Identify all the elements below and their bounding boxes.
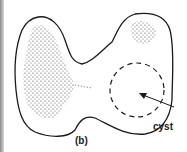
right-lobe-uptake bbox=[131, 21, 157, 44]
cyst-arrow bbox=[143, 95, 174, 107]
panel-label: (b) bbox=[75, 136, 88, 146]
left-lobe-uptake bbox=[23, 25, 75, 119]
cyst-label: cyst bbox=[153, 122, 173, 132]
cyst-region bbox=[110, 63, 164, 117]
